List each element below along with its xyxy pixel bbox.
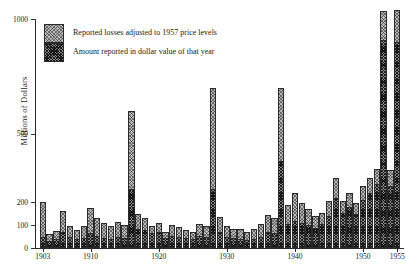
bar	[162, 232, 168, 248]
bar-segment-nominal	[259, 237, 263, 247]
bar-segment-adjusted	[116, 223, 120, 238]
y-tick-label: 200	[2, 198, 28, 207]
y-tick-mark	[31, 248, 35, 249]
bar	[292, 193, 298, 248]
bar	[367, 178, 373, 248]
bar-segment-nominal	[293, 221, 297, 247]
bar-segment-adjusted	[306, 210, 310, 226]
bar-segment-adjusted	[41, 203, 45, 238]
bar-segment-nominal	[327, 216, 331, 247]
legend-label-adjusted: Reported losses adjusted to 1957 price l…	[73, 28, 217, 37]
bar-segment-adjusted	[88, 209, 92, 234]
chart-legend: Reported losses adjusted to 1957 price l…	[44, 24, 259, 70]
bar	[60, 211, 66, 248]
bar-segment-nominal	[136, 229, 140, 247]
bar	[94, 218, 100, 248]
legend-swatch-light-hatch	[44, 24, 64, 43]
legend-swatch-dark-hatch	[44, 43, 64, 62]
bar-segment-nominal	[143, 230, 147, 247]
y-tick-mark	[31, 134, 35, 135]
bar	[312, 216, 318, 248]
bar	[183, 230, 189, 248]
bar-segment-nominal	[157, 232, 161, 247]
bar-segment-nominal	[116, 237, 120, 247]
bar-segment-nominal	[102, 238, 106, 247]
bar-segment-nominal	[150, 233, 154, 247]
bar	[217, 217, 223, 248]
bar-segment-nominal	[109, 239, 113, 247]
x-tick-label: 1920	[142, 252, 176, 261]
bar	[319, 213, 325, 248]
bar-chart: Millions of Dollars 01002005001000 19031…	[0, 0, 406, 276]
bar-segment-nominal	[375, 184, 379, 247]
y-tick-label: 1000	[2, 15, 28, 24]
bar-segment-nominal	[231, 238, 235, 247]
bar	[360, 186, 366, 248]
bar-segment-nominal	[354, 214, 358, 247]
bar	[244, 232, 250, 248]
bar	[87, 208, 93, 248]
bar-segment-nominal	[395, 42, 399, 247]
bar	[278, 88, 284, 248]
legend-label-nominal: Amount reported in dollar value of that …	[73, 47, 215, 56]
x-tick-label: 1910	[74, 252, 108, 261]
bar-segment-nominal	[211, 189, 215, 247]
bar-segment-adjusted	[347, 194, 351, 208]
bar-segment-nominal	[341, 213, 345, 247]
y-tick-label: 0	[2, 244, 28, 253]
bar	[251, 229, 257, 248]
bar	[53, 231, 59, 248]
bar	[305, 209, 311, 248]
bar	[46, 234, 52, 248]
bar-segment-nominal	[82, 238, 86, 247]
bar-segment-nominal	[88, 233, 92, 247]
bar-segment-adjusted	[300, 204, 304, 224]
bar-segment-nominal	[41, 237, 45, 247]
bar	[108, 226, 114, 248]
bar-segment-nominal	[306, 225, 310, 247]
bar-segment-nominal	[361, 200, 365, 247]
bar-segment-nominal	[122, 238, 126, 247]
y-tick-label: 500	[2, 129, 28, 138]
bar	[210, 88, 216, 248]
bar	[346, 193, 352, 248]
bar-segment-nominal	[266, 232, 270, 247]
bar	[142, 218, 148, 248]
bar-segment-nominal	[279, 161, 283, 247]
bar	[101, 223, 107, 248]
bar-segment-adjusted	[102, 224, 106, 239]
bar-segment-adjusted	[218, 218, 222, 233]
bar-segment-nominal	[218, 232, 222, 247]
x-tick-label: 1955	[380, 252, 406, 261]
bar	[230, 229, 236, 248]
y-tick-mark	[31, 19, 35, 20]
bar	[40, 202, 46, 248]
bar	[258, 224, 264, 248]
bar	[81, 226, 87, 248]
bar-segment-nominal	[300, 223, 304, 247]
y-axis-title: Millions of Dollars	[19, 61, 29, 161]
bar-segment-nominal	[54, 239, 58, 247]
bar-segment-adjusted	[334, 179, 338, 199]
bar-segment-adjusted	[375, 170, 379, 185]
bar-segment-adjusted	[95, 219, 99, 236]
bar	[353, 203, 359, 248]
bar	[374, 169, 380, 248]
bar	[326, 201, 332, 248]
x-tick-mark	[295, 248, 296, 252]
bar-segment-nominal	[163, 238, 167, 247]
x-tick-mark	[363, 248, 364, 252]
bar-segment-nominal	[381, 40, 385, 247]
x-tick-label: 1950	[346, 252, 380, 261]
bar	[74, 230, 80, 248]
bar-segment-nominal	[388, 186, 392, 247]
bar	[67, 226, 73, 248]
bar	[149, 226, 155, 248]
bar	[190, 232, 196, 248]
bar-segment-adjusted	[129, 112, 133, 190]
bar	[176, 227, 182, 248]
bar-segment-nominal	[184, 238, 188, 247]
bar	[299, 203, 305, 248]
bar-segment-nominal	[225, 237, 229, 247]
y-tick-mark	[31, 225, 35, 226]
